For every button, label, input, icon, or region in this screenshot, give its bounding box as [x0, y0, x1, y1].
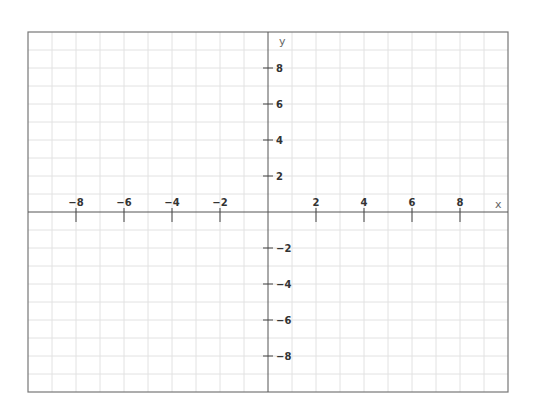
- x-tick-label: 4: [361, 197, 368, 208]
- x-tick-label: −8: [68, 197, 83, 208]
- coordinate-plane: −8−6−4−22468−8−6−4−22468 x y: [0, 0, 539, 419]
- y-tick-label: −2: [276, 243, 291, 254]
- x-tick-label: −2: [212, 197, 227, 208]
- y-tick-label: −6: [276, 315, 291, 326]
- x-tick-label: 2: [313, 197, 320, 208]
- y-tick-label: 2: [276, 171, 283, 182]
- y-tick-label: −4: [276, 279, 291, 290]
- y-axis-label: y: [279, 35, 286, 48]
- y-tick-label: 6: [276, 99, 283, 110]
- x-tick-label: −4: [164, 197, 179, 208]
- x-tick-label: 8: [457, 197, 464, 208]
- x-axis-label: x: [495, 198, 502, 211]
- y-tick-label: 4: [276, 135, 283, 146]
- y-tick-label: −8: [276, 351, 291, 362]
- x-tick-label: 6: [409, 197, 416, 208]
- x-tick-label: −6: [116, 197, 131, 208]
- y-tick-label: 8: [276, 63, 283, 74]
